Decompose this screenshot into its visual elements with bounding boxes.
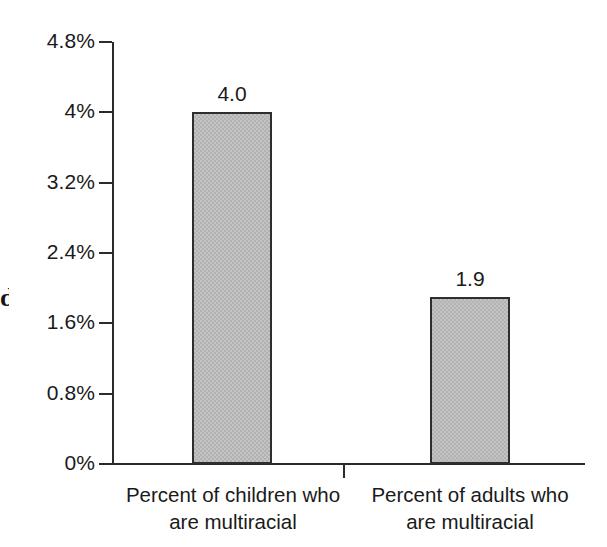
y-axis-tick [99, 182, 112, 184]
x-axis-category-label: Percent of adults whoare multiracial [354, 481, 586, 535]
bar-value-label: 1.9 [410, 267, 530, 291]
y-axis-tick [99, 393, 112, 395]
y-axis-tick-label-text: 3.2% [47, 170, 95, 194]
bar [192, 112, 272, 464]
bar-chart: d 0%0.8%1.6%2.4%3.2%4%4.8% 4.0Percent of… [0, 0, 607, 547]
y-axis-tick [99, 41, 112, 43]
bar-value-label: 4.0 [172, 82, 292, 106]
y-axis-tick-label-text: 2.4% [47, 240, 95, 264]
y-axis-line [112, 42, 114, 465]
page-edge-glyph-artifact: d [0, 287, 9, 308]
y-axis-tick-label-text: 0.8% [47, 381, 95, 405]
x-axis-line [112, 463, 585, 465]
x-axis-category-label-line: Percent of adults who [354, 481, 586, 508]
y-axis-tick-label-text: 0% [64, 451, 95, 475]
x-axis-category-label-line: are multiracial [354, 508, 586, 535]
x-axis-category-label-line: are multiracial [112, 508, 354, 535]
bar [430, 297, 510, 464]
x-axis-category-label-line: Percent of children who [112, 481, 354, 508]
y-axis-tick-label-text: 4.8% [47, 29, 95, 53]
y-axis-tick [99, 322, 112, 324]
x-axis-category-label: Percent of children whoare multiracial [112, 481, 354, 535]
y-axis-tick-label-text: 1.6% [47, 310, 95, 334]
y-axis-tick [99, 252, 112, 254]
y-axis-tick [99, 463, 112, 465]
category-separator-tick [343, 465, 345, 478]
y-axis-tick [99, 111, 112, 113]
y-axis-tick-label-text: 4% [64, 99, 95, 123]
